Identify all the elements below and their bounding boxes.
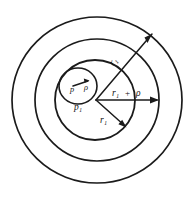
horizontal-rho-label: ρ (135, 88, 141, 98)
inner-circle-radius-label: r₁ (100, 115, 107, 125)
horizontal-ray-arrowhead (150, 97, 159, 104)
small-circle-center-label: p (69, 85, 74, 94)
horizontal-radius-label: r₁ (112, 88, 119, 98)
geometry-diagram: r₁ r₁ + ρ p ρ p₁ r₁ (0, 0, 195, 200)
horizontal-plus-sign: + (125, 88, 130, 98)
diagonal-radius-ray (96, 34, 152, 100)
small-circle-radius-label: ρ (83, 83, 88, 92)
small-circle (59, 68, 97, 104)
diagonal-ray-label-group: r₁ (107, 55, 119, 67)
diagonal-ray-label: r₁ (107, 55, 119, 67)
inner-circle-center-label: p₁ (73, 102, 82, 112)
figure-container: r₁ r₁ + ρ p ρ p₁ r₁ (0, 0, 195, 200)
